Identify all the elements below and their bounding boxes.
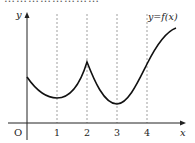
dashed-guidelines: [57, 14, 147, 123]
y-axis-arrow-icon: [25, 12, 30, 18]
tick-label-3: 3: [114, 127, 120, 138]
origin-label: O: [14, 127, 22, 138]
tick-label-1: 1: [54, 127, 60, 138]
function-label: y=f(x): [147, 11, 178, 22]
function-graph: y y=f(x) O 1 2 3 4 x: [0, 0, 195, 143]
function-curve: [27, 28, 176, 104]
x-axis-arrow-icon: [180, 121, 186, 126]
tick-label-2: 2: [84, 127, 90, 138]
tick-label-4: 4: [144, 127, 150, 138]
y-axis-label: y: [15, 9, 22, 20]
x-axis-label: x: [180, 127, 186, 138]
